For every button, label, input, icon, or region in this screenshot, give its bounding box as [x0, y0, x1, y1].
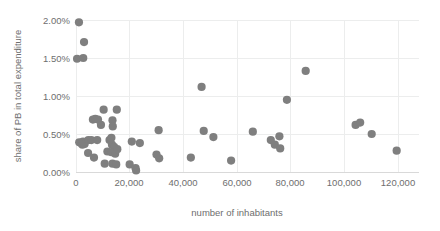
y-axis-title: share of PB in total expenditure	[12, 30, 23, 163]
data-point	[97, 121, 105, 129]
data-point	[132, 166, 140, 174]
x-tick-label: 40,000	[168, 177, 197, 188]
data-point	[275, 132, 283, 140]
data-point	[368, 130, 376, 138]
data-point	[152, 150, 160, 158]
x-axis-tick-labels: 0 20,000 40,000 60,000 80,000 100,000 12…	[73, 177, 415, 188]
data-point	[249, 128, 257, 136]
data-point	[79, 54, 87, 62]
data-point	[209, 133, 217, 141]
scatter-chart: 2.00% 1.50% 1.00% 0.50% 0.00% 0 20,000 4…	[0, 0, 440, 231]
data-point	[90, 153, 98, 161]
x-axis-title: number of inhabitants	[191, 207, 283, 218]
y-tick-label: 0.50%	[43, 129, 70, 140]
data-point	[200, 127, 208, 135]
x-tick-label: 20,000	[114, 177, 143, 188]
data-point	[128, 138, 136, 146]
x-tick-label: 80,000	[275, 177, 304, 188]
data-point	[197, 83, 205, 91]
data-point	[80, 38, 88, 46]
data-point	[101, 160, 109, 168]
data-point	[227, 157, 235, 165]
y-tick-label: 0.00%	[43, 167, 70, 178]
x-tick-label: 100,000	[327, 177, 361, 188]
data-point	[276, 144, 284, 152]
data-point	[93, 136, 101, 144]
data-point	[112, 160, 120, 168]
y-tick-label: 2.00%	[43, 15, 70, 26]
x-tick-label: 120,000	[381, 177, 415, 188]
data-point	[356, 119, 364, 127]
y-tick-label: 1.00%	[43, 91, 70, 102]
chart-canvas: 2.00% 1.50% 1.00% 0.50% 0.00% 0 20,000 4…	[0, 0, 440, 231]
data-point	[136, 139, 144, 147]
y-tick-label: 1.50%	[43, 53, 70, 64]
data-point	[187, 153, 195, 161]
data-point	[155, 126, 163, 134]
data-point	[302, 67, 310, 75]
data-point	[75, 18, 83, 26]
gridlines	[76, 20, 419, 172]
data-point	[283, 96, 291, 104]
data-point	[113, 106, 121, 114]
data-point	[100, 106, 108, 114]
data-point	[393, 147, 401, 155]
y-axis-tick-labels: 2.00% 1.50% 1.00% 0.50% 0.00%	[43, 15, 70, 178]
x-tick-label: 0	[73, 177, 78, 188]
x-tick-label: 60,000	[222, 177, 251, 188]
data-point	[113, 145, 121, 153]
data-point	[109, 122, 117, 130]
